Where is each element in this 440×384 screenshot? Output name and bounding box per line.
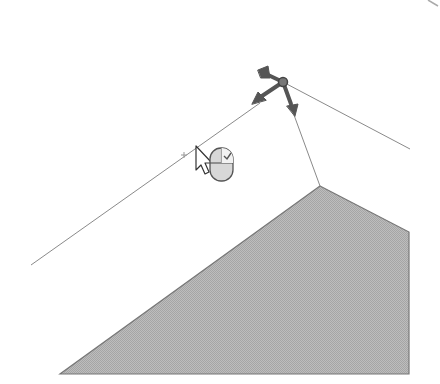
edge-left [31, 103, 260, 265]
move-gizmo[interactable] [252, 66, 298, 116]
gizmo-arrow-down [287, 104, 298, 116]
shaded-face[interactable] [60, 186, 409, 374]
mouse-left-click-icon [210, 148, 233, 181]
edge-down [294, 115, 320, 186]
corner-edge [428, 0, 438, 6]
scene-svg [0, 0, 440, 384]
edge-right [283, 82, 410, 149]
viewport-canvas[interactable] [0, 0, 440, 384]
crosshair-marker [181, 152, 187, 158]
gizmo-arrow-up-left [258, 66, 270, 78]
gizmo-pivot [279, 78, 288, 87]
